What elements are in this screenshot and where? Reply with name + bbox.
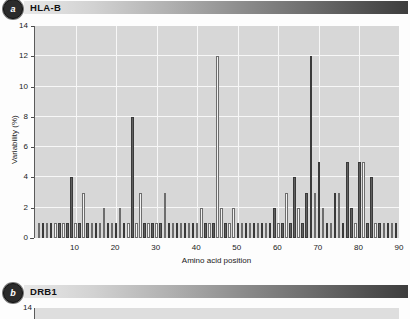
chart-bar — [54, 223, 57, 238]
chart-bar — [297, 208, 300, 238]
x-tick-label: 50 — [226, 244, 248, 252]
chart-bar — [346, 162, 349, 238]
chart-bar — [322, 208, 325, 238]
chart-bar — [151, 223, 154, 238]
chart-bar — [326, 223, 329, 238]
y-tick-label: 8 — [8, 113, 28, 121]
chart-bar — [74, 223, 77, 238]
chart-bar — [338, 193, 341, 238]
chart-bar — [314, 193, 317, 238]
chart-bar — [305, 193, 308, 238]
chart-bar — [220, 208, 223, 238]
chart-bar — [387, 223, 390, 238]
gridline-vertical — [157, 26, 158, 238]
gridline-vertical — [197, 26, 198, 238]
panel-a-header: a HLA-B — [0, 0, 410, 16]
chart-bar — [115, 223, 118, 238]
chart-bar — [135, 223, 138, 238]
chart-bar — [350, 208, 353, 238]
chart-bar — [289, 223, 292, 238]
chart-bar — [281, 223, 284, 238]
chart-bar — [78, 223, 81, 238]
chart-bar — [269, 223, 272, 238]
chart-bar — [180, 223, 183, 238]
chart-bar — [143, 223, 146, 238]
chart-bar — [155, 223, 158, 238]
chart-bar — [46, 223, 49, 238]
panel-b-ytick-14: 14 — [12, 304, 32, 312]
x-tick-label: 10 — [64, 244, 86, 252]
panel-a-title: HLA-B — [30, 1, 61, 14]
x-tick-label: 90 — [388, 244, 410, 252]
chart-bar — [358, 162, 361, 238]
chart-bar — [38, 223, 41, 238]
y-tick-mark — [31, 56, 34, 57]
x-tick-label: 70 — [307, 244, 329, 252]
plot-area-a — [34, 26, 399, 238]
chart-bar — [127, 223, 130, 238]
chart-bar — [253, 223, 256, 238]
chart-bar — [224, 223, 227, 238]
chart-bar — [119, 208, 122, 238]
chart-bar — [95, 223, 98, 238]
x-tick-label: 80 — [347, 244, 369, 252]
chart-bar — [172, 223, 175, 238]
chart-bar — [204, 223, 207, 238]
chart-bar — [334, 193, 337, 238]
chart-bar — [395, 223, 398, 238]
chart-bar — [310, 56, 313, 238]
x-tick-label: 20 — [104, 244, 126, 252]
chart-bar — [362, 162, 365, 238]
chart-bar — [103, 208, 106, 238]
y-tick-label: 2 — [8, 204, 28, 212]
gridline-vertical — [76, 26, 77, 238]
chart-bar — [176, 223, 179, 238]
chart-bar — [139, 193, 142, 238]
panel-b-title: DRB1 — [30, 285, 57, 298]
chart-bar — [216, 56, 219, 238]
chart-bar — [91, 223, 94, 238]
chart-bar — [66, 223, 69, 238]
chart-bar — [273, 208, 276, 238]
y-tick-mark — [31, 26, 34, 27]
chart-bar — [159, 223, 162, 238]
y-tick-mark — [31, 238, 34, 239]
chart-bar — [237, 223, 240, 238]
chart-bar — [330, 223, 333, 238]
chart-bar — [70, 177, 73, 238]
chart-bar — [383, 223, 386, 238]
chart-bar — [366, 223, 369, 238]
chart-bar — [391, 223, 394, 238]
y-tick-label: 6 — [8, 143, 28, 151]
plot-area-b — [34, 308, 399, 319]
chart-bar — [378, 223, 381, 238]
x-tick-label: 30 — [145, 244, 167, 252]
chart-bar — [285, 193, 288, 238]
chart-bar — [42, 223, 45, 238]
chart-bar — [168, 223, 171, 238]
chart-bar — [241, 223, 244, 238]
y-tick-label: 0 — [8, 234, 28, 242]
chart-bar — [107, 223, 110, 238]
chart-bar — [293, 177, 296, 238]
gridline-vertical — [238, 26, 239, 238]
chart-bar — [111, 223, 114, 238]
chart-bar — [370, 177, 373, 238]
x-axis-label: Amino acid position — [34, 256, 399, 265]
chart-bar — [261, 223, 264, 238]
chart-bar — [354, 223, 357, 238]
x-tick-label: 60 — [266, 244, 288, 252]
chart-bar — [131, 117, 134, 238]
chart-bar — [318, 162, 321, 238]
chart-bar — [123, 223, 126, 238]
hla-b-chart: Variability (%) Amino acid position 0246… — [0, 16, 410, 274]
y-tick-label: 10 — [8, 83, 28, 91]
chart-bar — [249, 223, 252, 238]
y-tick-label: 4 — [8, 173, 28, 181]
chart-bar — [208, 223, 211, 238]
y-tick-mark — [31, 147, 34, 148]
chart-bar — [374, 223, 377, 238]
chart-bar — [62, 223, 65, 238]
chart-bar — [188, 223, 191, 238]
x-tick-label: 40 — [185, 244, 207, 252]
